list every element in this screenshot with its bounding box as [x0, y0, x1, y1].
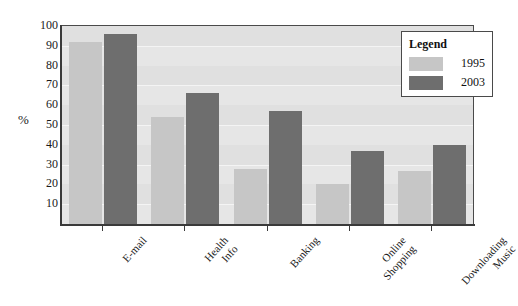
y-axis-tick-40: 40: [46, 138, 58, 150]
bar-1995: [151, 117, 184, 224]
x-axis-label-health-info: HealthInfo: [202, 234, 240, 273]
legend-title: Legend: [409, 37, 485, 52]
y-axis-tick-30: 30: [46, 158, 58, 170]
y-axis-line: [60, 25, 62, 226]
bar-1995: [316, 184, 349, 224]
x-axis-tick-mark: [267, 226, 268, 231]
legend-swatch-1995: [409, 57, 443, 71]
y-axis-tick-10: 10: [46, 197, 58, 209]
legend-label-2003: 2003: [461, 75, 485, 90]
bar-group: [151, 26, 219, 224]
y-axis-tick-70: 70: [46, 78, 58, 90]
bar-2003: [186, 93, 219, 224]
y-axis-tick-80: 80: [46, 59, 58, 71]
bar-2003: [104, 34, 137, 224]
x-axis-tick-mark: [102, 226, 103, 231]
legend-entry: 2003: [409, 75, 485, 90]
x-axis-label-e-mail: E-mail: [120, 234, 149, 265]
x-axis-line: [61, 224, 475, 226]
y-axis-tick-90: 90: [46, 39, 58, 51]
x-axis-tick-mark: [431, 226, 432, 231]
y-axis-tick-100: 100: [40, 19, 58, 31]
bar-1995: [69, 42, 102, 224]
bar-group: [234, 26, 302, 224]
y-axis-tick-50: 50: [46, 118, 58, 130]
bar-2003: [269, 111, 302, 224]
x-axis-label-banking: Banking: [287, 234, 321, 270]
legend-entries: 19952003: [409, 56, 485, 90]
bar-group: [316, 26, 384, 224]
legend-box: Legend 19952003: [401, 31, 493, 97]
bar-1995: [398, 171, 431, 224]
bar-1995: [234, 169, 267, 224]
legend-entry: 1995: [409, 56, 485, 71]
bar-2003: [433, 145, 466, 224]
legend-label-1995: 1995: [461, 56, 485, 71]
legend-swatch-2003: [409, 76, 443, 90]
x-axis-label-downloading-music: DownloadingMusic: [459, 234, 518, 295]
y-axis-tick-labels: 100908070605040302010: [34, 19, 58, 227]
x-axis-tick-mark: [349, 226, 350, 231]
bar-group: [69, 26, 137, 224]
x-axis-label-online-shopping: OnlineShopping: [371, 234, 418, 282]
bar-2003: [351, 151, 384, 224]
x-axis-tick-mark: [184, 226, 185, 231]
y-axis-title: %: [18, 112, 29, 128]
y-axis-tick-20: 20: [46, 177, 58, 189]
y-axis-tick-60: 60: [46, 98, 58, 110]
